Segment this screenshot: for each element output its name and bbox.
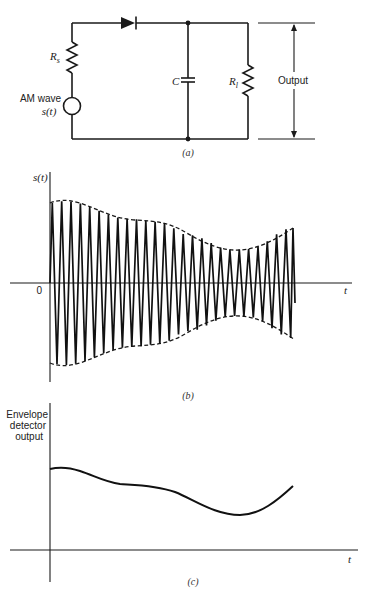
envelope-output-curve — [50, 468, 293, 515]
figure-canvas: Rs AM wave s(t) C Rl Output (a) s(t) 0 t… — [0, 0, 371, 595]
origin-label: 0 — [36, 285, 42, 296]
label-output: Output — [278, 75, 308, 86]
panel-c-envelope-output: Envelope detector output t (c) — [6, 403, 358, 588]
diode-icon — [121, 17, 135, 29]
y-label-b: s(t) — [33, 171, 48, 184]
y-label-c-line2: detector — [10, 420, 47, 431]
arrow-up-icon — [291, 24, 297, 31]
y-label-c-line1: Envelope — [6, 409, 48, 420]
caption-b: (b) — [182, 390, 194, 402]
arrow-down-icon — [291, 131, 297, 138]
y-label-c-line3: output — [15, 431, 43, 442]
label-rl: Rl — [228, 75, 239, 90]
panel-a-circuit: Rs AM wave s(t) C Rl Output (a) — [20, 17, 315, 160]
label-s-of-t: s(t) — [42, 105, 57, 118]
x-label-b: t — [344, 284, 348, 296]
label-am-wave: AM wave — [20, 93, 62, 104]
resistor-rs-icon — [67, 42, 77, 73]
label-capacitor: C — [172, 75, 180, 87]
caption-c: (c) — [187, 576, 199, 588]
caption-a: (a) — [182, 147, 194, 159]
ac-source-icon — [64, 98, 81, 115]
upper-envelope — [50, 200, 293, 250]
panel-b-am-wave: s(t) 0 t (b) — [10, 171, 352, 402]
label-rs: Rs — [49, 50, 60, 65]
x-label-c: t — [348, 553, 352, 565]
resistor-rl-icon — [243, 65, 253, 96]
